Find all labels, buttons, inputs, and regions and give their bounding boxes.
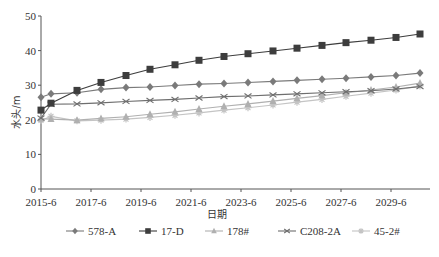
star-marker [358,228,364,234]
diamond-marker [270,77,277,85]
series-line [41,83,420,120]
legend-item: 178# [205,225,250,237]
square-marker [98,79,105,86]
x-tick-label: 2029-6 [375,196,407,208]
diamond-marker [147,83,154,91]
diamond-marker [38,93,45,101]
y-tick-label: 20 [25,114,37,126]
diamond-marker [48,90,55,98]
square-marker [196,57,203,64]
diamond-marker [172,82,179,90]
legend-item: 578-A [66,225,116,237]
x-tick-label: 2017-6 [75,196,107,208]
legend-label: C208-2A [300,225,341,237]
square-marker [368,37,375,44]
series-17-d [38,30,424,113]
series-c208-2a [38,84,424,120]
legend-label: 17-D [161,225,184,237]
square-marker [38,107,45,114]
diamond-marker [221,79,228,87]
series-178- [38,79,424,123]
square-marker [294,45,301,52]
diamond-marker [343,74,350,82]
legend-label: 178# [227,225,250,237]
y-tick-label: 10 [25,148,37,160]
square-marker [221,53,228,60]
y-tick-label: 40 [25,45,37,57]
x-tick-label: 2027-6 [325,196,357,208]
diamond-marker [319,75,326,83]
square-marker [270,47,277,54]
line-chart: 010203040502015-62017-62019-62021-62023-… [0,0,439,257]
square-marker [417,30,424,37]
diamond-marker [196,80,203,88]
legend-item: C208-2A [278,225,341,237]
series-line [41,87,420,118]
square-marker [74,87,81,94]
y-tick-label: 50 [25,10,37,22]
square-marker [319,42,326,49]
diamond-marker [245,78,252,86]
x-tick-label: 2019-6 [125,196,157,208]
x-tick-label: 2023-6 [225,196,257,208]
square-marker [145,228,151,234]
square-marker [172,61,179,68]
series-group [38,30,424,124]
legend-item: 45-2# [352,225,400,237]
legend-label: 45-2# [374,225,400,237]
x-tick-label: 2015-6 [25,196,57,208]
series-line [41,34,420,110]
square-marker [147,66,154,73]
legend-label: 578-A [88,225,116,237]
y-axis-title: 水头/m [11,95,22,128]
diamond-marker [123,84,130,92]
square-marker [245,50,252,57]
diamond-marker [98,85,105,93]
square-marker [393,34,400,41]
square-marker [123,72,130,79]
diamond-marker [393,72,400,80]
x-tick-label: 2025-6 [275,196,307,208]
diamond-marker [368,73,375,81]
y-tick-label: 30 [25,79,37,91]
diamond-marker [72,228,78,235]
legend: 578-A17-D178#C208-2A45-2# [66,225,400,237]
square-marker [48,100,55,107]
x-axis-title: 日期 [207,209,227,220]
diamond-marker [417,69,424,77]
diamond-marker [294,76,301,84]
square-marker [343,39,350,46]
y-tick-label: 0 [31,183,37,195]
legend-item: 17-D [139,225,184,237]
x-tick-label: 2021-6 [175,196,207,208]
